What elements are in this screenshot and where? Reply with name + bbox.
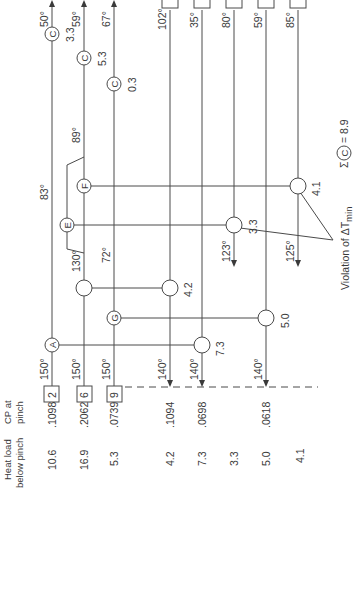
temp-label: 140° [188, 358, 200, 380]
heat-load-value: 4.1 [294, 448, 306, 463]
exchanger-duty: 5.0 [279, 313, 291, 328]
arrow-down-icon [199, 380, 205, 387]
stream-box [194, 0, 210, 8]
cooler-duty: 0.3 [126, 77, 138, 92]
cp-header-line2: pinch [14, 401, 25, 424]
stream-85 [290, 0, 306, 267]
temp-label: 130° [70, 250, 82, 272]
exchanger-E-hot-icon[interactable] [226, 217, 242, 233]
stream-box [290, 0, 306, 8]
sigma-symbol: Σ [338, 161, 350, 168]
arrow-down-icon [263, 380, 269, 387]
sigma-circle-label: C [339, 150, 350, 157]
heat-load-value: 16.9 [78, 449, 90, 470]
temp-label: 123° [220, 240, 232, 262]
temp-label: 89° [70, 127, 82, 143]
exchanger-A-label: A [47, 341, 58, 348]
violation-pointer [300, 192, 333, 240]
sigma-cooler-total: Σ C = 8.9 [337, 119, 351, 168]
exchanger-duty: 7.3 [214, 341, 226, 356]
stream-102 [162, 0, 178, 387]
violation-annotation: Violation of ΔTmin [339, 207, 354, 290]
arrow-up-icon [49, 0, 55, 7]
cooler-duty: 3.3 [64, 27, 76, 42]
temp-label: 35° [188, 12, 200, 28]
exchanger-E-label: E [62, 222, 73, 228]
exchanger-duty: 3.3 [247, 219, 259, 234]
cp-header-line1: CP at [2, 400, 13, 424]
heat-load-header-line2: below pinch [14, 438, 25, 488]
arrow-down-icon [167, 380, 173, 387]
exchanger-unlabeled-hot-icon[interactable] [162, 280, 178, 296]
temp-label: 125° [284, 240, 296, 262]
exchanger-G-label: G [109, 314, 120, 321]
stream-id-9: 9 [108, 392, 120, 398]
exchanger-A-hot-icon[interactable] [194, 337, 210, 353]
stream-box [162, 0, 178, 8]
svg-text:Violation of ΔTmin: Violation of ΔTmin [339, 207, 354, 290]
exchanger-G-hot-icon[interactable] [258, 310, 274, 326]
stream-id-6: 6 [78, 392, 90, 398]
exchanger-F-hot-icon[interactable] [290, 178, 306, 194]
arrow-up-icon [111, 0, 117, 7]
temp-label: 83° [38, 184, 50, 200]
temp-label: 102° [156, 8, 168, 30]
exchanger-F-label: F [79, 183, 90, 189]
stream-box [226, 0, 242, 8]
temp-label: 150° [38, 358, 50, 380]
sigma-value: = 8.9 [338, 119, 350, 143]
arrow-up-icon [81, 0, 87, 7]
temp-label: 140° [252, 358, 264, 380]
exchanger-unlabeled-icon[interactable] [76, 280, 92, 296]
heat-load-header-line1: Heat load [2, 439, 13, 480]
temp-label: 140° [156, 358, 168, 380]
temp-label: 72° [100, 247, 112, 263]
temp-label: 67° [100, 11, 112, 27]
stream-box [258, 0, 274, 8]
cp-value: .1098 [46, 402, 58, 428]
heat-load-value: 10.6 [46, 449, 58, 470]
stream-59 [258, 0, 274, 387]
temp-label: 59° [70, 11, 82, 27]
heat-load-value: 5.0 [260, 451, 272, 466]
temp-label: 150° [70, 358, 82, 380]
heat-load-value: 5.3 [108, 451, 120, 466]
temp-label: 80° [220, 12, 232, 28]
violation-text: Violation of ΔT [339, 221, 351, 290]
temp-label: 50° [38, 11, 50, 27]
temp-label: 59° [252, 12, 264, 28]
heat-load-value: 3.3 [228, 451, 240, 466]
cp-value: .1094 [164, 402, 176, 428]
stream-35 [194, 0, 210, 387]
exchanger-duty: 4.1 [310, 181, 322, 196]
cooler-label: C [109, 81, 120, 88]
heat-exchanger-network-diagram: Heat load below pinch CP at pinch 10.6 1… [0, 0, 362, 609]
cp-value: .0698 [196, 402, 208, 428]
cooler-label: C [47, 31, 58, 38]
stream-id-2: 2 [46, 392, 58, 398]
exchanger-duty: 4.2 [182, 282, 194, 297]
violation-subscript: min [343, 207, 354, 222]
cp-value: .0739 [108, 402, 120, 428]
stream-9 [111, 0, 117, 386]
heat-load-value: 7.3 [196, 451, 208, 466]
stream-6-split-branch [67, 157, 84, 253]
cooler-duty: 5.3 [96, 51, 108, 66]
temp-label: 85° [284, 12, 296, 28]
cp-value: .2062 [78, 402, 90, 428]
temp-label: 150° [100, 358, 112, 380]
cp-value: .0618 [260, 402, 272, 428]
heat-load-value: 4.2 [164, 451, 176, 466]
cooler-label: C [79, 55, 90, 62]
